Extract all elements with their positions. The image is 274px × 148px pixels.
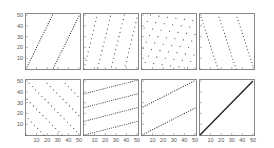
data-point	[28, 118, 29, 119]
data-point	[30, 60, 31, 61]
subplot-8: 1020304050	[200, 80, 257, 144]
data-point	[237, 17, 238, 18]
subplot-3	[141, 14, 196, 70]
data-point	[73, 128, 74, 129]
data-point	[145, 62, 146, 63]
data-point	[226, 39, 227, 40]
data-point	[75, 112, 76, 113]
data-point	[185, 85, 186, 86]
data-point	[130, 44, 131, 45]
data-point	[187, 84, 188, 85]
data-point	[147, 104, 148, 105]
data-point	[116, 45, 117, 46]
data-point	[94, 25, 95, 26]
data-point	[31, 122, 32, 123]
data-point	[126, 61, 127, 62]
data-point	[160, 125, 161, 126]
data-point	[174, 38, 175, 39]
data-point	[51, 17, 52, 18]
data-point	[65, 83, 66, 84]
data-point	[217, 68, 218, 69]
subplot-5: 10203040501020304050	[17, 78, 82, 143]
data-point	[59, 54, 60, 55]
data-point	[221, 23, 222, 24]
y-tick-label: 10	[17, 55, 23, 61]
data-point	[249, 56, 250, 57]
data-point	[101, 50, 102, 51]
data-point	[179, 66, 180, 67]
data-point	[142, 106, 143, 107]
data-point	[43, 134, 44, 135]
data-point	[136, 18, 137, 19]
x-tick-label: 50	[76, 137, 82, 143]
data-point	[166, 94, 167, 95]
data-point	[244, 39, 245, 40]
data-point	[61, 134, 62, 135]
data-point	[176, 52, 177, 53]
data-point	[103, 46, 104, 47]
data-point	[181, 87, 182, 88]
data-point	[78, 115, 79, 116]
data-point	[167, 17, 168, 18]
data-point	[152, 29, 153, 30]
data-point	[144, 27, 145, 28]
data-point	[177, 32, 178, 33]
data-point	[193, 54, 194, 55]
data-point	[106, 33, 107, 34]
data-point	[158, 126, 159, 127]
data-point	[167, 121, 168, 122]
data-point	[71, 89, 72, 90]
data-point	[199, 68, 200, 69]
data-point	[148, 131, 149, 132]
data-point	[143, 48, 144, 49]
data-point	[93, 30, 94, 31]
data-point	[128, 52, 129, 53]
x-tick-label: 20	[218, 137, 224, 143]
data-point	[36, 47, 37, 48]
data-point	[25, 134, 26, 135]
data-point	[141, 134, 142, 135]
data-point	[239, 23, 240, 24]
data-point	[153, 63, 154, 64]
x-tick-label: 10	[150, 137, 156, 143]
data-point	[113, 58, 114, 59]
data-point	[85, 64, 86, 65]
data-point	[64, 118, 65, 119]
data-point	[115, 49, 116, 50]
data-point	[210, 46, 211, 47]
data-point	[49, 21, 50, 22]
data-point	[74, 24, 75, 25]
data-point	[163, 124, 164, 125]
data-point	[146, 132, 147, 133]
data-point	[35, 89, 36, 90]
data-point	[34, 125, 35, 126]
data-point	[47, 83, 48, 84]
data-point	[68, 37, 69, 38]
data-point	[62, 48, 63, 49]
data-point	[64, 46, 65, 47]
x-tick-label: 40	[239, 137, 245, 143]
data-point	[57, 59, 58, 60]
y-tick-label: 30	[17, 34, 23, 40]
data-point	[213, 56, 214, 57]
data-point	[250, 59, 251, 60]
axes-frame	[142, 80, 197, 136]
data-point	[234, 65, 235, 66]
data-point	[180, 115, 181, 116]
y-tick-label: 30	[17, 100, 23, 106]
data-point	[53, 67, 54, 68]
data-point	[186, 112, 187, 113]
data-point	[77, 96, 78, 97]
data-point	[150, 130, 151, 131]
data-point	[58, 131, 59, 132]
data-point	[63, 99, 64, 100]
axes-frame	[84, 14, 139, 70]
data-point	[35, 49, 36, 50]
data-point	[155, 22, 156, 23]
data-point	[183, 39, 184, 40]
data-point	[186, 33, 187, 34]
x-tick-label: 30	[171, 137, 177, 143]
data-point	[247, 49, 248, 50]
data-point	[66, 102, 67, 103]
data-point	[233, 62, 234, 63]
